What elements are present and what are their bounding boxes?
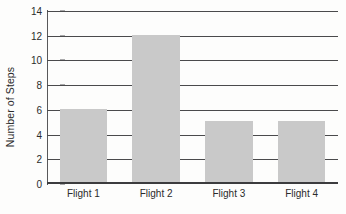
gridline — [47, 60, 338, 61]
bar — [278, 121, 326, 183]
x-axis-tick-labels: Flight 1Flight 2Flight 3Flight 4 — [47, 188, 338, 208]
plot-area — [47, 11, 338, 184]
y-tick-label: 0 — [18, 179, 42, 190]
y-axis-tick-labels: 02468101214 — [18, 0, 42, 214]
x-axis-line — [47, 182, 338, 184]
y-tick-label: 10 — [18, 55, 42, 66]
gridline — [47, 36, 338, 37]
gridline — [47, 11, 338, 12]
y-tick-label: 14 — [18, 6, 42, 17]
gridline — [47, 85, 338, 86]
y-tick-label: 12 — [18, 30, 42, 41]
bar — [132, 35, 180, 183]
x-tick-label: Flight 2 — [140, 188, 173, 199]
y-axis-title: Number of Steps — [0, 0, 20, 214]
y-tick-label: 4 — [18, 129, 42, 140]
bar-chart-figure: Number of Steps 02468101214 Flight 1Flig… — [0, 0, 346, 214]
bar — [60, 109, 108, 183]
x-tick-label: Flight 4 — [285, 188, 318, 199]
bar — [205, 121, 253, 183]
x-tick-label: Flight 3 — [212, 188, 245, 199]
y-tick-label: 6 — [18, 104, 42, 115]
y-tick-label: 8 — [18, 80, 42, 91]
x-tick-label: Flight 1 — [67, 188, 100, 199]
y-tick-label: 2 — [18, 154, 42, 165]
